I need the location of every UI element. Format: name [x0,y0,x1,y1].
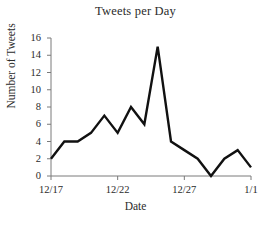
y-tick-label: 10 [19,85,41,95]
axis-lines [51,38,251,176]
data-series-line [51,47,251,176]
y-tick-label: 2 [19,154,41,164]
y-tick-label: 16 [19,33,41,43]
y-tick-marks [47,38,51,176]
y-tick-label: 14 [19,50,41,60]
x-tick-label: 1/1 [226,184,271,195]
x-tick-label: 12/27 [159,184,209,195]
x-tick-marks [51,176,251,180]
x-tick-label: 12/22 [93,184,143,195]
chart-figure: Tweets per Day Number of Tweets Date 024… [0,0,271,225]
y-tick-label: 0 [19,171,41,181]
y-tick-label: 6 [19,119,41,129]
y-tick-label: 8 [19,102,41,112]
y-tick-label: 12 [19,68,41,78]
y-tick-label: 4 [19,137,41,147]
x-tick-label: 12/17 [26,184,76,195]
